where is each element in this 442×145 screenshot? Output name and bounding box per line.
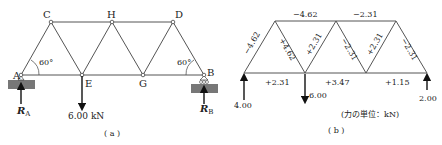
member-ae-force: +2.31 bbox=[265, 78, 290, 87]
unit-note: (力の単位：kN) bbox=[341, 109, 399, 119]
load-label-a: 6.00 kN bbox=[68, 111, 104, 121]
angle-arc-left bbox=[31, 60, 39, 75]
reaction-b-label: RB bbox=[199, 103, 213, 116]
node-d-label: D bbox=[175, 9, 183, 20]
member-eh-force: +2.31 bbox=[304, 31, 324, 57]
caption-b: ( b ) bbox=[328, 126, 344, 135]
reaction-right-value: 2.00 bbox=[419, 94, 437, 103]
node-a-label: A bbox=[12, 70, 21, 81]
member-ce-force: +4.62 bbox=[277, 37, 297, 63]
member-ch-force: −4.62 bbox=[293, 10, 318, 19]
truss-b: −4.62 −2.31 −4.62 +4.62 +2.31 −2.31 +2.3… bbox=[234, 10, 437, 135]
angle-right-label: 60° bbox=[177, 58, 191, 67]
reaction-a-label: RA bbox=[16, 105, 31, 118]
reaction-left-value: 4.00 bbox=[234, 101, 252, 110]
truss-figure: A C H D E G B 60° 60° 6.00 kN RA RB ( a … bbox=[0, 0, 442, 145]
member-hd-force: −2.31 bbox=[353, 10, 378, 19]
node-e-label: E bbox=[85, 78, 92, 89]
member-ac-force: −4.62 bbox=[242, 30, 262, 56]
angle-left-label: 60° bbox=[39, 58, 53, 67]
member-eg-force: +3.47 bbox=[325, 78, 350, 87]
member-db-force: −2.31 bbox=[399, 37, 419, 63]
truss-a: A C H D E G B 60° 60° 6.00 kN RA RB ( a … bbox=[8, 9, 218, 138]
node-g-label: G bbox=[139, 78, 147, 89]
node-c-label: C bbox=[43, 9, 51, 20]
node-h-label: H bbox=[107, 9, 116, 20]
member-hg-force: −2.31 bbox=[339, 37, 359, 63]
member-gd-force: +2.31 bbox=[365, 31, 385, 57]
node-b-label: B bbox=[207, 67, 214, 78]
member-gb-force: +1.15 bbox=[385, 78, 410, 87]
caption-a: ( a ) bbox=[104, 129, 120, 138]
load-value-b: 6.00 bbox=[309, 91, 327, 100]
